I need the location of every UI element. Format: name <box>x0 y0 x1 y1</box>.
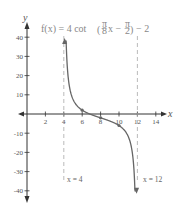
asymptote-label-right: x = 12 <box>143 175 162 184</box>
marked-point <box>117 124 120 127</box>
asymptote-label-left: x = 4 <box>67 175 83 184</box>
y-tick-label: -30 <box>14 168 24 176</box>
title-frac1-den: 8 <box>102 25 107 36</box>
title-mid: x − <box>108 23 122 34</box>
y-tick-label: -40 <box>14 187 24 195</box>
y-axis-down-arrow-icon <box>25 196 30 203</box>
x-axis-label: x <box>167 108 173 119</box>
x-tick-label: 14 <box>152 118 160 126</box>
x-axis-right-arrow-icon <box>161 112 167 117</box>
y-axis-label: y <box>22 12 28 23</box>
marked-point <box>81 109 84 112</box>
y-axis-up-arrow-icon <box>25 22 30 29</box>
y-tick-label: 20 <box>16 72 24 80</box>
title-prefix: f(x) = 4 cot <box>41 23 87 35</box>
x-tick-label: 6 <box>80 118 84 126</box>
y-tick-label: -20 <box>14 149 24 157</box>
y-tick-label: 40 <box>16 34 24 42</box>
y-tick-label: 30 <box>16 53 24 61</box>
title-paren-close: ) <box>130 24 133 36</box>
marked-point <box>99 116 102 119</box>
x-axis: x <box>18 108 173 119</box>
chart-title: f(x) = 4 cot ( π 8 x − π 2 ) − 2 <box>41 18 149 36</box>
y-tick-label: -10 <box>14 130 24 138</box>
chart: x y 2 4 6 8 10 12 14 40 30 2 <box>0 0 178 209</box>
title-suffix: − 2 <box>136 23 149 34</box>
y-tick-label: 10 <box>16 91 24 99</box>
title-paren-open: ( <box>97 24 101 36</box>
x-axis-left-arrow-icon <box>18 112 24 117</box>
y-axis: y <box>22 12 30 203</box>
x-tick-labels: 2 4 6 8 10 12 14 <box>44 118 160 126</box>
x-tick-label: 2 <box>44 118 48 126</box>
